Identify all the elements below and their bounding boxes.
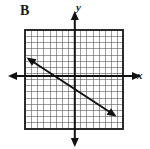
x-axis-left-arrowhead	[8, 72, 17, 80]
plotted-line	[27, 58, 117, 117]
coordinate-grid-figure	[0, 0, 150, 149]
y-axis-label: y	[76, 2, 81, 13]
panel-label: B	[20, 4, 29, 18]
figure-panel: B y x	[0, 0, 150, 149]
x-axis-label: x	[137, 70, 143, 81]
y-axis	[71, 11, 79, 147]
line-lower-right-arrowhead	[107, 108, 117, 116]
line-upper-left-arrowhead	[27, 58, 37, 66]
y-axis-bottom-arrowhead	[71, 138, 79, 147]
